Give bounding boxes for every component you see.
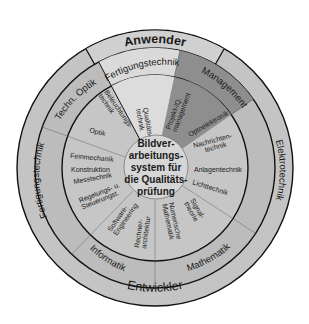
competence-wheel-diagram: Bildver- arbeitungs- system für die Qual… [0, 0, 309, 324]
topic-konstruktion: Konstruktion [71, 166, 110, 173]
center-title-line-2: arbeitungs- [129, 150, 183, 161]
center-circle: Bildver- arbeitungs- system für die Qual… [124, 135, 188, 199]
topic-anlagentechnik: Anlagentechnik [194, 166, 242, 174]
center-title-line-5: prüfung [137, 186, 175, 197]
center-title-line-1: Bildver- [137, 138, 174, 149]
center-title-line-3: system für [131, 162, 182, 173]
center-title-line-4: die Qualitäts- [124, 174, 187, 185]
